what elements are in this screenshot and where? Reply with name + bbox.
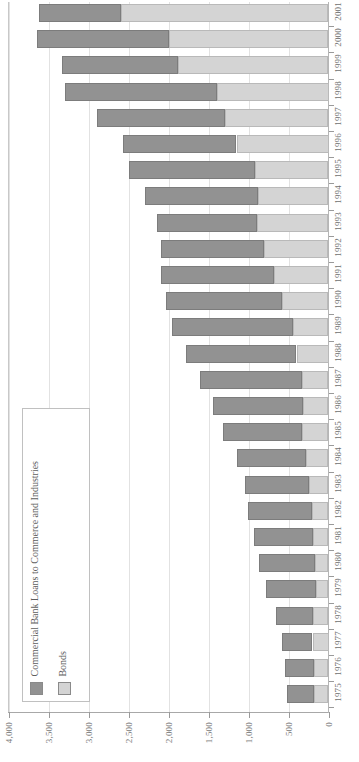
bar-row[interactable] [0,214,359,232]
bar-segment-bonds[interactable] [313,607,328,625]
x-axis-tick [169,712,170,718]
category-label: 1989 [333,316,343,335]
bar-segment-loans[interactable] [248,502,312,520]
bar-segment-loans[interactable] [65,83,217,101]
category-label: 1987 [333,369,343,388]
category-label: 1996 [333,133,343,152]
x-axis-tick [49,712,50,718]
category-label: 1990 [333,290,343,309]
bar-row[interactable] [0,318,359,336]
bar-segment-loans[interactable] [39,4,121,22]
bar-segment-loans[interactable] [223,423,302,441]
bar-segment-bonds[interactable] [255,161,329,179]
bar-row[interactable] [0,161,359,179]
category-label: 1992 [333,238,343,257]
bar-segment-loans[interactable] [276,607,314,625]
legend-label-bonds: Bonds [57,651,68,677]
category-label: 1976 [333,657,343,676]
bar-segment-loans[interactable] [259,554,315,572]
bar-row[interactable] [0,4,359,22]
bar-segment-bonds[interactable] [169,30,328,48]
bar-segment-loans[interactable] [129,161,255,179]
bar-segment-loans[interactable] [282,633,312,651]
x-axis-tick [329,712,330,718]
category-tick [329,498,334,499]
category-label: 2000 [333,28,343,47]
bar-segment-loans[interactable] [123,135,237,153]
bar-segment-loans[interactable] [186,345,296,363]
bar-segment-bonds[interactable] [217,83,329,101]
x-axis-tick-label: 4,000 [4,722,14,743]
bar-segment-bonds[interactable] [293,318,328,336]
bar-segment-bonds[interactable] [258,187,328,205]
bar-segment-loans[interactable] [172,318,294,336]
bar-segment-bonds[interactable] [314,659,328,677]
bar-segment-bonds[interactable] [309,476,328,494]
bar-row[interactable] [0,56,359,74]
bar-segment-bonds[interactable] [315,554,329,572]
category-label: 1981 [333,526,343,545]
bar-segment-loans[interactable] [161,240,264,258]
bar-segment-loans[interactable] [62,56,178,74]
x-axis-tick [129,712,130,718]
bar-segment-loans[interactable] [254,528,313,546]
bar-row[interactable] [0,187,359,205]
x-axis-tick [89,712,90,718]
bar-segment-bonds[interactable] [264,240,329,258]
x-axis-tick-label: 1,500 [204,722,214,743]
category-tick [329,707,334,708]
bar-segment-bonds[interactable] [306,449,328,467]
bar-row[interactable] [0,292,359,310]
category-label: 1979 [333,578,343,597]
bar-segment-loans[interactable] [37,30,169,48]
bar-segment-loans[interactable] [266,580,316,598]
bar-segment-loans[interactable] [285,659,314,677]
category-label: 1988 [333,343,343,362]
bar-segment-bonds[interactable] [303,397,329,415]
bar-segment-bonds[interactable] [225,109,328,127]
bar-segment-bonds[interactable] [314,685,328,703]
bar-row[interactable] [0,266,359,284]
category-label: 1980 [333,552,343,571]
bar-segment-bonds[interactable] [312,502,329,520]
bar-row[interactable] [0,371,359,389]
bar-segment-bonds[interactable] [237,135,329,153]
bar-row[interactable] [0,240,359,258]
bar-row[interactable] [0,109,359,127]
bar-segment-bonds[interactable] [121,4,328,22]
chart-root: 4,0003,5003,0002,5002,0001,5001,0005000 … [0,0,359,762]
bar-segment-loans[interactable] [287,685,314,703]
category-tick [329,524,334,525]
bar-segment-loans[interactable] [245,476,309,494]
bar-row[interactable] [0,30,359,48]
bar-segment-loans[interactable] [200,371,302,389]
category-label: 1982 [333,500,343,519]
bar-row[interactable] [0,83,359,101]
category-label: 1995 [333,159,343,178]
bar-segment-bonds[interactable] [302,423,328,441]
bar-segment-loans[interactable] [145,187,259,205]
category-label: 1997 [333,107,343,126]
x-axis-tick-label: 1,000 [244,722,254,743]
x-axis-tick [289,712,290,718]
legend-swatch-bonds [58,682,71,695]
bar-segment-loans[interactable] [213,397,303,415]
bar-segment-bonds[interactable] [297,345,329,363]
bar-segment-loans[interactable] [161,266,275,284]
bar-segment-bonds[interactable] [178,56,328,74]
bar-segment-bonds[interactable] [302,371,328,389]
bar-segment-bonds[interactable] [274,266,328,284]
bar-segment-loans[interactable] [157,214,257,232]
bar-segment-bonds[interactable] [313,633,329,651]
bar-segment-loans[interactable] [166,292,282,310]
bar-segment-loans[interactable] [237,449,307,467]
bar-segment-loans[interactable] [97,109,225,127]
x-axis-tick-label: 2,000 [164,722,174,743]
bar-row[interactable] [0,135,359,153]
category-label: 1983 [333,474,343,493]
bar-segment-bonds[interactable] [313,528,328,546]
bar-row[interactable] [0,345,359,363]
bar-segment-bonds[interactable] [316,580,329,598]
bar-segment-bonds[interactable] [282,292,328,310]
bar-segment-bonds[interactable] [257,214,328,232]
